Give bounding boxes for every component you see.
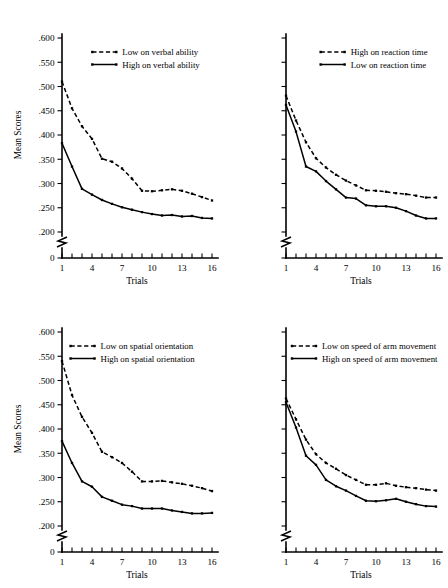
legend-item: High on spatial orientation: [69, 354, 195, 364]
x-tick-label: 1: [60, 263, 65, 273]
panel-verbal-ability: .600.550.500.450.400.350.300.250.2000147…: [0, 0, 224, 294]
series-solid: [285, 104, 437, 220]
y-axis-title: Mean Scores: [13, 404, 23, 453]
x-axis-title: Trials: [126, 570, 148, 580]
y-tick-label: .350: [38, 155, 54, 165]
x-tick-label: 1: [60, 557, 65, 567]
panel-reaction-time: 147101316TrialsHigh on reaction timeLow …: [224, 0, 448, 294]
panel-spatial-orientation: .600.550.500.450.400.350.300.250.2000147…: [0, 294, 224, 588]
y-tick-label: .400: [38, 130, 54, 140]
x-tick-label: 1: [284, 263, 289, 273]
x-tick-label: 4: [90, 263, 95, 273]
legend-label: High on spatial orientation: [101, 354, 196, 364]
x-tick-label: 7: [120, 263, 125, 273]
x-axis-title: Trials: [126, 276, 148, 286]
legend-item: High on verbal ability: [91, 60, 200, 70]
y-tick-label: 0: [50, 547, 55, 557]
y-tick-label: .350: [38, 449, 54, 459]
y-tick-label: .600: [38, 327, 54, 337]
legend-item: Low on verbal ability: [91, 47, 199, 57]
x-tick-label: 16: [207, 557, 217, 567]
y-tick-label: .200: [38, 521, 54, 531]
series-dashed: [61, 81, 213, 202]
x-tick-label: 16: [431, 263, 441, 273]
legend: High on reaction timeLow on reaction tim…: [319, 47, 427, 69]
x-axis-title: Trials: [350, 276, 372, 286]
x-tick-label: 10: [371, 557, 381, 567]
legend-label: High on speed of arm movement: [322, 354, 438, 364]
legend-item: Low on speed of arm movement: [291, 341, 437, 351]
legend-label: Low on spatial orientation: [101, 341, 194, 351]
legend: Low on verbal abilityHigh on verbal abil…: [91, 47, 200, 69]
legend: Low on speed of arm movementHigh on spee…: [291, 341, 438, 364]
y-tick-label: .500: [38, 82, 54, 92]
x-tick-label: 13: [177, 557, 187, 567]
y-axis-break-mark: [57, 237, 67, 247]
x-tick-label: 13: [401, 263, 411, 273]
x-tick-label: 7: [344, 557, 349, 567]
y-tick-label: .250: [38, 203, 54, 213]
four-panel-line-chart-figure: .600.550.500.450.400.350.300.250.2000147…: [0, 0, 448, 588]
y-tick-label: .550: [38, 58, 54, 68]
x-tick-label: 4: [314, 557, 319, 567]
y-axis-break-mark: [57, 531, 67, 541]
y-tick-label: .450: [38, 106, 54, 116]
x-tick-label: 10: [371, 263, 381, 273]
x-tick-label: 10: [147, 263, 157, 273]
x-axis-ticks: 147101316: [284, 254, 441, 274]
legend-item: High on speed of arm movement: [291, 354, 438, 364]
y-tick-label: .200: [38, 227, 54, 237]
y-tick-label: .300: [38, 179, 54, 189]
x-tick-label: 1: [284, 557, 289, 567]
y-tick-label: .500: [38, 376, 54, 386]
panel-speed-arm-movement: 147101316TrialsLow on speed of arm movem…: [224, 294, 448, 588]
x-tick-label: 13: [177, 263, 187, 273]
legend-item: High on reaction time: [319, 47, 427, 57]
y-tick-label: .400: [38, 424, 54, 434]
y-tick-label: .600: [38, 33, 54, 43]
y-tick-label: 0: [50, 253, 55, 263]
legend-label: High on reaction time: [351, 47, 428, 57]
x-axis-title: Trials: [350, 570, 372, 580]
x-tick-label: 10: [147, 557, 157, 567]
y-axis-ticks: .600.550.500.450.400.350.300.250.2000: [38, 33, 62, 263]
x-tick-label: 13: [401, 557, 411, 567]
legend-item: Low on spatial orientation: [69, 341, 193, 351]
series-solid: [285, 401, 437, 508]
x-axis-ticks: 147101316: [60, 254, 217, 274]
y-tick-label: .250: [38, 497, 54, 507]
x-axis-ticks: 147101316: [284, 548, 441, 568]
y-axis-ticks: .600.550.500.450.400.350.300.250.2000: [38, 327, 62, 557]
y-axis-title: Mean Scores: [13, 110, 23, 159]
legend: Low on spatial orientationHigh on spatia…: [69, 341, 195, 364]
series-dashed: [285, 397, 437, 491]
x-tick-label: 7: [344, 263, 349, 273]
x-tick-label: 7: [120, 557, 125, 567]
legend-label: High on verbal ability: [122, 60, 200, 70]
y-axis-break-mark: [281, 237, 291, 247]
series-dashed: [285, 95, 437, 199]
x-tick-label: 16: [207, 263, 217, 273]
series-dashed: [61, 360, 213, 492]
legend-label: Low on reaction time: [351, 60, 427, 70]
y-axis-break-mark: [281, 531, 291, 541]
x-tick-label: 4: [314, 263, 319, 273]
legend-label: Low on speed of arm movement: [322, 341, 437, 351]
legend-label: Low on verbal ability: [122, 47, 199, 57]
x-tick-label: 4: [90, 557, 95, 567]
x-tick-label: 16: [431, 557, 441, 567]
series-solid: [61, 142, 213, 219]
legend-item: Low on reaction time: [319, 60, 426, 70]
y-tick-label: .450: [38, 400, 54, 410]
y-tick-label: .550: [38, 352, 54, 362]
x-axis-ticks: 147101316: [60, 548, 217, 568]
y-tick-label: .300: [38, 473, 54, 483]
